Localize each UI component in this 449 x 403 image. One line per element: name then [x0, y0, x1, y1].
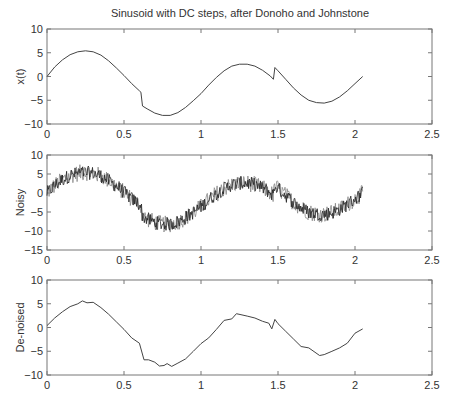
y-tick-label: 0: [37, 71, 43, 83]
x-tick-label: 2.5: [424, 254, 439, 266]
x-tick-label: 0: [44, 128, 50, 140]
x-tick-label: 2.5: [424, 379, 439, 391]
x-tick-label: 1: [198, 254, 204, 266]
plot-area: [47, 155, 432, 250]
axes-x-of-t: 00.511.522.51050−5−10x(t): [14, 23, 440, 140]
y-tick-label: 0: [37, 322, 43, 334]
x-tick-label: 1.5: [270, 379, 285, 391]
y-tick-label: −5: [30, 94, 43, 106]
axes-noisy: 00.511.522.51050−5−10−15Noisy: [14, 149, 440, 266]
y-tick-label: 10: [31, 23, 43, 35]
y-tick-label: −15: [24, 244, 43, 256]
x-tick-label: 0.5: [116, 254, 131, 266]
plot-area: [47, 29, 432, 124]
y-axis-label: De-noised: [14, 302, 26, 352]
figure: Sinusoid with DC steps, after Donoho and…: [0, 0, 449, 403]
x-tick-label: 2.5: [424, 128, 439, 140]
x-tick-label: 0: [44, 254, 50, 266]
x-tick-label: 2: [352, 254, 358, 266]
y-tick-label: −10: [24, 225, 43, 237]
y-axis-label: x(t): [14, 69, 26, 85]
x-tick-label: 0.5: [116, 379, 131, 391]
x-tick-label: 2: [352, 379, 358, 391]
y-tick-label: 5: [37, 168, 43, 180]
y-tick-label: −5: [30, 206, 43, 218]
signal-trace: [47, 51, 363, 116]
plot-area: [47, 280, 432, 375]
y-tick-label: 10: [31, 274, 43, 286]
y-tick-label: 5: [37, 298, 43, 310]
x-tick-label: 1: [198, 379, 204, 391]
y-axis-label: Noisy: [14, 188, 26, 216]
x-tick-label: 1.5: [270, 254, 285, 266]
denoised-trace: [47, 301, 363, 367]
x-tick-label: 1: [198, 128, 204, 140]
y-tick-label: −10: [24, 118, 43, 130]
y-tick-label: −5: [30, 345, 43, 357]
x-tick-label: 1.5: [270, 128, 285, 140]
noisy-trace: [47, 166, 363, 230]
x-tick-label: 0.5: [116, 128, 131, 140]
x-tick-label: 2: [352, 128, 358, 140]
y-tick-label: 0: [37, 187, 43, 199]
y-tick-label: −10: [24, 369, 43, 381]
chart-title: Sinusoid with DC steps, after Donoho and…: [111, 7, 369, 19]
y-tick-label: 10: [31, 149, 43, 161]
axes-de-noised: 00.511.522.51050−5−10De-noised: [14, 274, 440, 391]
y-tick-label: 5: [37, 47, 43, 59]
x-tick-label: 0: [44, 379, 50, 391]
